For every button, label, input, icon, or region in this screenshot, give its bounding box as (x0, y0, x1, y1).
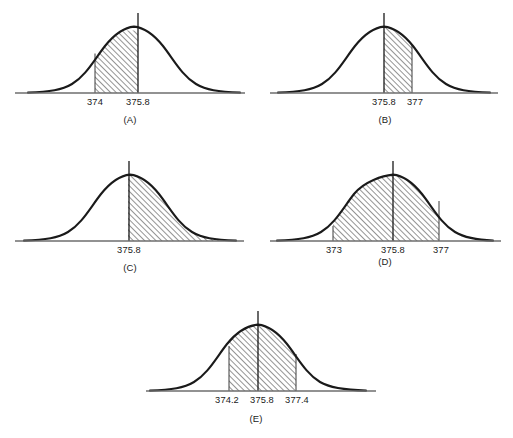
figure-root: 374 375.8 (A) 375.8 (0, 0, 513, 438)
panel-e: 374.2 375.8 377.4 (E) (138, 302, 378, 434)
shaded-region-d (277, 175, 493, 241)
panel-d: 373 375.8 377 (D) (265, 152, 505, 282)
panel-a: 374 375.8 (A) (10, 4, 250, 134)
tick-label-d-2: 377 (433, 245, 449, 255)
panel-e-chart: 374.2 375.8 377.4 (138, 302, 378, 414)
tick-label-a-0: 374 (87, 97, 103, 107)
shaded-region-a (28, 27, 240, 93)
panel-b-chart: 375.8 377 (265, 4, 505, 114)
panel-d-chart: 373 375.8 377 (265, 152, 505, 262)
panel-caption-c: (C) (10, 262, 250, 273)
panel-c: 375.8 (C) (10, 152, 250, 282)
tick-label-b-1: 377 (407, 97, 423, 107)
panel-caption-a: (A) (10, 114, 250, 125)
panel-b: 375.8 377 (B) (265, 4, 505, 134)
tick-label-d-1: 375.8 (381, 245, 405, 255)
tick-label-a-1: 375.8 (126, 97, 150, 107)
tick-label-c-0: 375.8 (117, 245, 141, 255)
tick-label-e-2: 377.4 (285, 395, 309, 405)
tick-label-b-0: 375.8 (372, 97, 396, 107)
tick-label-d-0: 373 (326, 245, 342, 255)
panel-a-chart: 374 375.8 (10, 4, 250, 114)
shaded-region-c (24, 175, 236, 241)
panel-caption-e: (E) (136, 413, 376, 424)
panel-caption-d: (D) (265, 256, 505, 267)
tick-label-e-1: 375.8 (250, 395, 274, 405)
panel-caption-b: (B) (265, 114, 505, 125)
panel-c-chart: 375.8 (10, 152, 250, 262)
tick-label-e-0: 374.2 (215, 395, 239, 405)
